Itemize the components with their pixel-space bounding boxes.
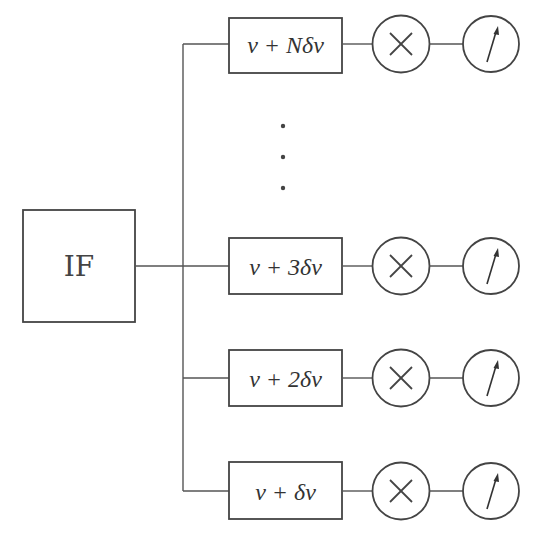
channel-n: ν + Nδν <box>183 16 519 74</box>
filter-label: ν + Nδν <box>247 32 324 58</box>
ellipsis-dot <box>281 155 285 159</box>
channel-1: ν + δν <box>183 462 519 520</box>
meter-circle <box>463 350 519 406</box>
ellipsis-dots <box>281 124 285 190</box>
filter-label: ν + 2δν <box>249 366 322 392</box>
ellipsis-dot <box>281 124 285 128</box>
if-block: IF <box>23 210 135 322</box>
channel-2: ν + 2δν <box>183 350 519 407</box>
filter-label: ν + 3δν <box>249 254 322 280</box>
if-label: IF <box>64 250 95 283</box>
meter-circle <box>463 16 519 72</box>
filter-bank-diagram: IF ν + Nδν ν + 3δν <box>0 0 546 538</box>
meter-circle <box>463 463 519 519</box>
meter-circle <box>463 238 519 294</box>
ellipsis-dot <box>281 186 285 190</box>
filter-label: ν + δν <box>255 479 316 505</box>
channel-3: ν + 3δν <box>183 238 519 295</box>
